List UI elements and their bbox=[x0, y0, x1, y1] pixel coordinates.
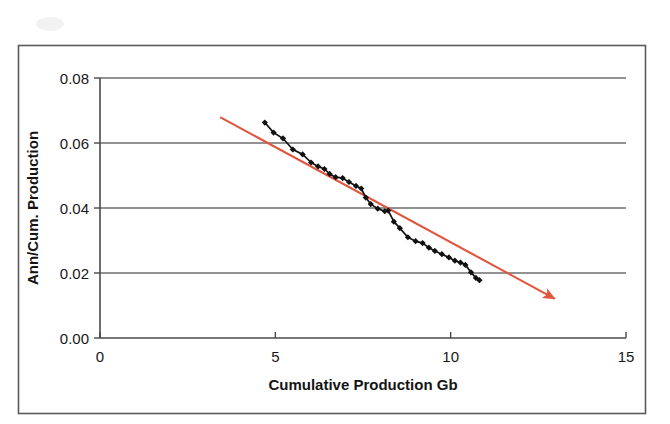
chart-svg: 0.000.020.040.060.08 051015 Cumulative P… bbox=[0, 0, 670, 424]
y-tick-label: 0.02 bbox=[60, 265, 89, 282]
y-tick-label: 0.04 bbox=[60, 200, 89, 217]
y-axis-title: Ann/Cum. Production bbox=[24, 131, 41, 285]
y-tick-label: 0.08 bbox=[60, 70, 89, 87]
y-tick-label: 0.00 bbox=[60, 330, 89, 347]
x-tick-label: 0 bbox=[96, 348, 104, 365]
scan-artifact bbox=[36, 17, 64, 31]
chart-figure: 0.000.020.040.060.08 051015 Cumulative P… bbox=[0, 0, 670, 424]
x-axis-title: Cumulative Production Gb bbox=[268, 376, 457, 393]
y-tick-label: 0.06 bbox=[60, 135, 89, 152]
x-tick-label: 15 bbox=[618, 348, 635, 365]
x-tick-label: 5 bbox=[271, 348, 279, 365]
x-tick-label: 10 bbox=[442, 348, 459, 365]
